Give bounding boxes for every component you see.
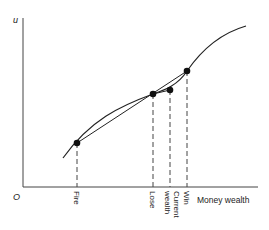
point-fire (74, 140, 81, 147)
point-current (167, 87, 174, 94)
label-current-line2: wealth (163, 190, 172, 214)
label-current-line1: Current (172, 191, 181, 218)
origin-label: O (13, 192, 20, 202)
point-win (184, 68, 191, 75)
label-fire: Fire (72, 191, 81, 205)
utility-diagram: u O Money wealth Fire Lose Current wealt… (0, 0, 269, 230)
label-lose: Lose (148, 191, 157, 209)
point-lose (150, 91, 157, 98)
x-axis-label: Money wealth (197, 195, 250, 205)
label-win: Win (182, 191, 191, 205)
y-axis-label: u (13, 15, 18, 25)
